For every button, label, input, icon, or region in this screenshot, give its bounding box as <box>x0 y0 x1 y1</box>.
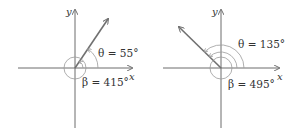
theta-arc <box>88 49 98 68</box>
x-axis-label: x <box>129 71 135 82</box>
coterminal-angles-diagram: x y θ = 55° β = 415° x y θ = 135° β = 49… <box>0 0 287 138</box>
theta-label: θ = 135° <box>238 38 285 50</box>
right-figure: x y θ = 135° β = 495° <box>163 6 285 128</box>
theta-label: θ = 55° <box>98 47 138 59</box>
beta-label: β = 415° <box>82 76 129 88</box>
terminal-side-ray <box>75 19 108 68</box>
x-axis-label: x <box>277 71 283 82</box>
terminal-side-ray <box>179 27 221 68</box>
left-figure: x y θ = 55° β = 415° <box>18 6 138 128</box>
beta-label: β = 495° <box>228 78 275 90</box>
y-axis-label: y <box>211 6 218 17</box>
beta-arc <box>80 61 83 68</box>
y-axis-label: y <box>65 6 72 17</box>
